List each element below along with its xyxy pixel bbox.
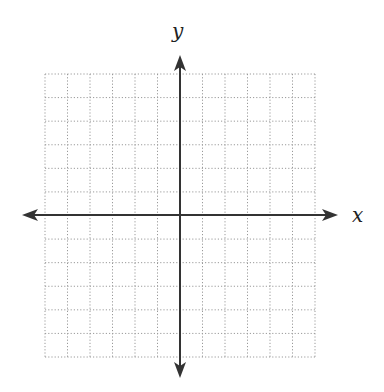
x-axis-label: x (352, 203, 363, 227)
coordinate-plane: x y (0, 0, 384, 392)
axes (22, 55, 338, 378)
y-axis-label: y (171, 19, 184, 43)
